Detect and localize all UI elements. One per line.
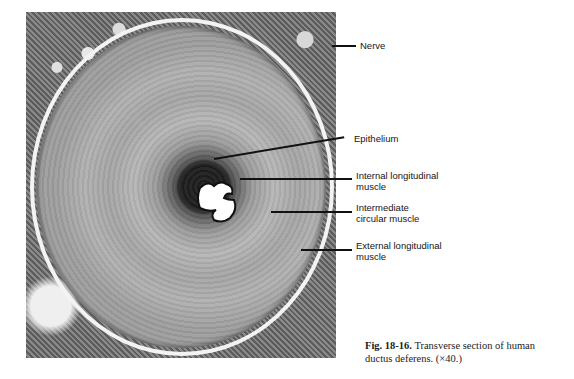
label-intermediate-circular-muscle: Intermediate circular muscle <box>356 202 419 224</box>
micrograph <box>26 12 336 358</box>
label-internal-longitudinal-muscle: Internal longitudinal muscle <box>356 170 438 192</box>
external-leader <box>301 249 352 251</box>
label-nerve: Nerve <box>360 40 385 51</box>
internal-leader <box>240 178 352 180</box>
label-external-longitudinal-muscle: External longitudinal muscle <box>356 240 442 262</box>
intermediate-leader <box>271 211 352 213</box>
figure-number: Fig. 18-16. <box>365 340 412 351</box>
muscular-wall <box>36 26 326 348</box>
figure-caption: Fig. 18-16. Transverse section of human … <box>365 339 565 365</box>
label-epithelium: Epithelium <box>354 133 398 144</box>
lumen <box>194 178 240 226</box>
nerve-leader <box>332 45 356 47</box>
